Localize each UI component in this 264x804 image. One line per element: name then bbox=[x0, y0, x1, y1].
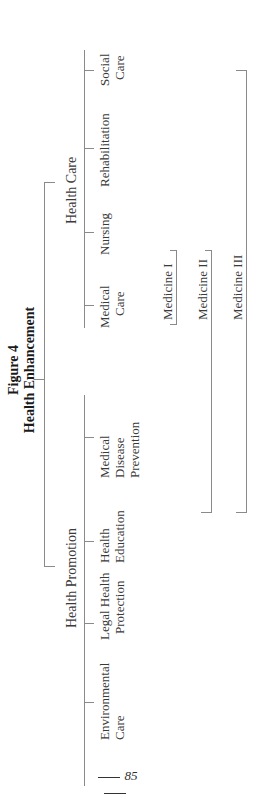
cap-health-promotion bbox=[44, 566, 55, 567]
tick-environmental-care bbox=[84, 702, 94, 703]
medicine-3-cap-bottom bbox=[236, 512, 247, 513]
medicine-3-cap-top bbox=[236, 70, 247, 71]
medicine-2-cap-bottom bbox=[201, 512, 212, 513]
node-environmental-care: Environmental Care bbox=[97, 663, 127, 740]
medicine-3-bracket bbox=[246, 70, 247, 513]
node-social-care: Social Care bbox=[97, 54, 127, 87]
figure-label: Figure 4 bbox=[6, 300, 22, 440]
group-label-health-promotion: Health Promotion bbox=[64, 528, 79, 628]
node-medical-disease-prevention: Medical Disease Prevention bbox=[97, 422, 142, 478]
medicine-1-label: Medicine I bbox=[160, 263, 175, 320]
root-connector bbox=[44, 182, 45, 567]
cap-health-care bbox=[44, 182, 55, 183]
group-label-health-care: Health Care bbox=[64, 157, 79, 224]
node-legal-health-protection: Legal Health Protection bbox=[97, 573, 127, 641]
node-health-education: Health Education bbox=[97, 510, 127, 563]
root-tick bbox=[34, 379, 44, 380]
medicine-3-label: Medicine III bbox=[230, 255, 245, 320]
medicine-2-label: Medicine II bbox=[195, 259, 210, 320]
tick-nursing bbox=[84, 232, 94, 233]
figure-name: Health Enhancement bbox=[22, 300, 38, 440]
figure-title: Figure 4 Health Enhancement bbox=[6, 300, 38, 440]
medicine-1-cap-top bbox=[170, 250, 177, 251]
rule-right bbox=[104, 793, 126, 794]
node-nursing: Nursing bbox=[97, 213, 112, 255]
tick-medical-care bbox=[84, 305, 94, 306]
tick-health-education bbox=[84, 541, 94, 542]
medicine-2-cap-top bbox=[205, 250, 212, 251]
tick-social-care bbox=[84, 70, 94, 71]
page-number: 85 bbox=[80, 768, 150, 800]
tick-rehabilitation bbox=[84, 148, 94, 149]
tick-legal-health-protection bbox=[84, 623, 94, 624]
medicine-1-cap-bottom bbox=[170, 324, 177, 325]
node-rehabilitation: Rehabilitation bbox=[97, 113, 112, 187]
rule-left bbox=[98, 777, 120, 778]
health-promotion-connector bbox=[84, 395, 85, 786]
node-medical-care: Medical Care bbox=[97, 285, 127, 328]
medicine-1-bracket bbox=[176, 250, 177, 325]
tick-medical-disease-prevention bbox=[84, 437, 94, 438]
health-care-connector bbox=[84, 50, 85, 328]
medicine-2-bracket bbox=[211, 250, 212, 513]
